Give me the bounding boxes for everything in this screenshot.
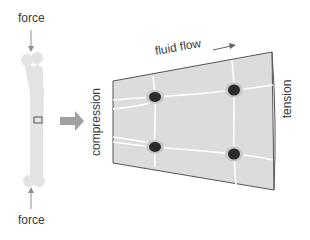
- osteocyte-cell: [228, 85, 240, 96]
- force-label-bottom: force: [18, 214, 45, 226]
- osteocyte-cell: [149, 92, 161, 102]
- bone-icon: [21, 52, 45, 187]
- osteocyte-cell: [149, 142, 161, 152]
- force-label-top: force: [18, 12, 45, 24]
- compression-label: compression: [90, 88, 102, 156]
- fluid-flow-arrow-icon: [213, 43, 236, 50]
- osteocyte-cell: [228, 149, 240, 160]
- force-arrow-top: [28, 30, 34, 52]
- tension-label: tension: [281, 80, 293, 119]
- diagram-canvas: [0, 0, 310, 240]
- force-arrow-bottom: [28, 187, 34, 209]
- magnify-arrow-icon: [60, 111, 84, 131]
- tissue-panel: [113, 52, 274, 190]
